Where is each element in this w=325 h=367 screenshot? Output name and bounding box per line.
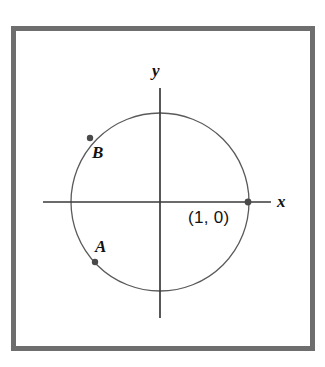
figure-root: y x (1, 0) B A: [0, 0, 325, 367]
point-marker-one-zero[interactable]: [245, 199, 252, 206]
point-label-one-zero: (1, 0): [188, 209, 229, 226]
point-label-a: A: [95, 238, 106, 255]
point-marker-a[interactable]: [92, 259, 98, 265]
unit-circle-diagram: [0, 0, 325, 367]
y-axis-label: y: [152, 62, 160, 79]
x-axis-label: x: [277, 193, 286, 210]
point-marker-b[interactable]: [87, 135, 93, 141]
point-label-b: B: [92, 144, 103, 161]
canvas-background: [0, 0, 325, 367]
